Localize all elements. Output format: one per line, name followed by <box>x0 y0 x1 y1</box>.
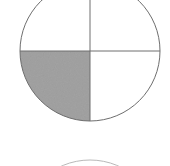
shaded-quadrant-bottom-left <box>20 51 90 121</box>
second-fraction-circle-outline <box>20 160 160 166</box>
figure-stage <box>0 0 170 166</box>
fraction-diagram <box>0 0 170 166</box>
